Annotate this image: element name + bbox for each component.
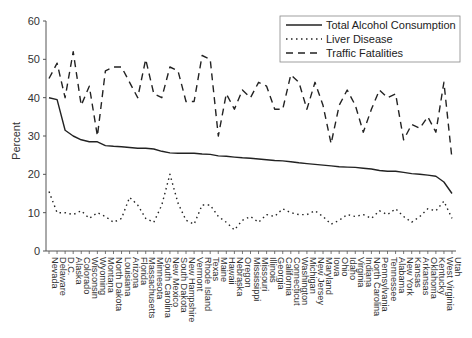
legend-item-traffic-fatalities: Traffic Fatalities bbox=[326, 47, 404, 59]
series-traffic-fatalities bbox=[49, 52, 452, 159]
y-tick-label: 20 bbox=[28, 168, 40, 180]
x-axis-labels: NevadaDelawareD.C.AlaskaColoradoWisconsi… bbox=[50, 257, 463, 322]
line-chart: 0102030405060 NevadaDelawareD.C.AlaskaCo… bbox=[0, 0, 472, 338]
y-tick-label: 60 bbox=[28, 15, 40, 27]
series-lines bbox=[49, 52, 452, 230]
x-tick-label: Utah bbox=[453, 257, 463, 276]
y-tick-label: 40 bbox=[28, 92, 40, 104]
y-tick-label: 30 bbox=[28, 130, 40, 142]
series-liver-disease bbox=[49, 174, 452, 230]
y-tick-label: 50 bbox=[28, 53, 40, 65]
y-tick-label: 10 bbox=[28, 207, 40, 219]
legend-item-liver-disease: Liver Disease bbox=[326, 33, 393, 45]
y-axis-label: Percent bbox=[10, 122, 22, 160]
y-tick-label: 0 bbox=[34, 245, 40, 257]
legend-item-total-alcohol: Total Alcohol Consumption bbox=[326, 19, 456, 31]
legend: Total Alcohol Consumption Liver Disease … bbox=[280, 16, 460, 62]
series-total-alcohol-consumption bbox=[49, 98, 452, 194]
